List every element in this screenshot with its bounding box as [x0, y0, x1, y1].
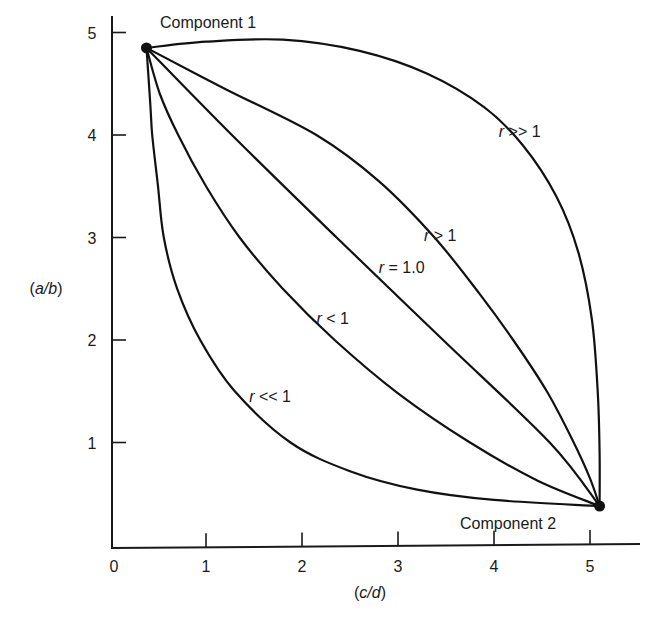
curve-label-r-1: r << 1 [249, 388, 291, 405]
y-tick-label-2: 2 [88, 332, 97, 349]
component-2-point [594, 501, 605, 512]
curve-series [147, 39, 600, 506]
curve-label-r-1: r >> 1 [499, 123, 541, 140]
x-tick-label-4: 4 [490, 558, 499, 575]
y-axis-ticks: 12345 [88, 25, 126, 452]
component-1-label: Component 1 [160, 14, 256, 31]
y-tick-label-1: 1 [88, 435, 97, 452]
binary-phase-plot: 012345 12345 (c/d) (a/b) r >> 1r > 1r = … [0, 0, 662, 625]
component-2-label: Component 2 [460, 515, 556, 532]
x-axis-title: (c/d) [354, 584, 386, 601]
axes: 012345 12345 [88, 16, 640, 575]
x-tick-label-5: 5 [586, 558, 595, 575]
curve-r-1-0 [147, 48, 600, 506]
y-tick-label-5: 5 [88, 25, 97, 42]
x-tick-label-0: 0 [110, 558, 119, 575]
x-axis-ticks: 012345 [110, 530, 595, 575]
y-axis-title: (a/b) [30, 280, 63, 297]
curve-label-r-1: r < 1 [316, 310, 349, 327]
curve-labels: r >> 1r > 1r = 1.0r < 1r << 1 [249, 123, 541, 404]
component-1-point [141, 42, 152, 53]
y-tick-label-3: 3 [88, 230, 97, 247]
x-tick-label-3: 3 [394, 558, 403, 575]
x-axis-line [111, 544, 640, 548]
x-tick-label-2: 2 [298, 558, 307, 575]
x-tick-label-1: 1 [202, 558, 211, 575]
curve-label-r-1-0: r = 1.0 [379, 259, 425, 276]
curve-label-r-1: r > 1 [424, 227, 457, 244]
y-tick-label-4: 4 [88, 127, 97, 144]
